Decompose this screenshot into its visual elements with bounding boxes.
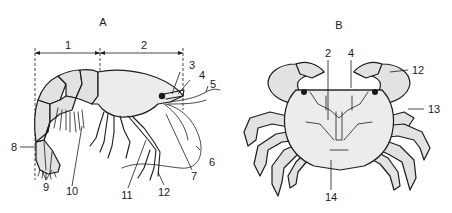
leader-6 xyxy=(196,146,200,150)
arrowhead xyxy=(178,51,183,55)
crab-eye-left xyxy=(301,89,307,95)
shrimp-carapace xyxy=(92,70,184,117)
leader-12 xyxy=(158,172,164,185)
shrimp-tail xyxy=(36,140,60,179)
panel-b: B xyxy=(244,19,440,203)
label-b12: 12 xyxy=(412,64,424,76)
label-8: 8 xyxy=(11,141,17,153)
leader-10 xyxy=(72,126,82,186)
label-1: 1 xyxy=(65,39,71,51)
label-b2: 2 xyxy=(325,47,331,59)
arrowhead xyxy=(35,51,40,55)
label-2: 2 xyxy=(141,39,147,51)
anatomy-figure: A xyxy=(0,0,452,213)
shrimp-legs xyxy=(90,112,160,180)
panel-a-title: A xyxy=(99,16,107,28)
label-10: 10 xyxy=(66,185,78,197)
label-7: 7 xyxy=(191,170,197,182)
label-b13: 13 xyxy=(428,103,440,115)
label-11: 11 xyxy=(121,189,132,201)
label-12: 12 xyxy=(158,186,170,198)
crab-eye-right xyxy=(372,89,378,95)
arrowhead xyxy=(95,51,100,55)
label-4: 4 xyxy=(199,69,205,81)
panel-a: A xyxy=(11,16,220,201)
label-5: 5 xyxy=(210,78,216,90)
crab-carapace xyxy=(284,89,393,170)
panel-b-title: B xyxy=(335,19,342,31)
leader-7 xyxy=(166,114,192,170)
label-9: 9 xyxy=(43,181,49,193)
arrowhead xyxy=(100,51,105,55)
shrimp-abdomen xyxy=(35,70,98,142)
label-6: 6 xyxy=(209,156,215,168)
label-b14: 14 xyxy=(325,191,337,203)
label-3: 3 xyxy=(189,59,195,71)
label-b4: 4 xyxy=(348,47,354,59)
